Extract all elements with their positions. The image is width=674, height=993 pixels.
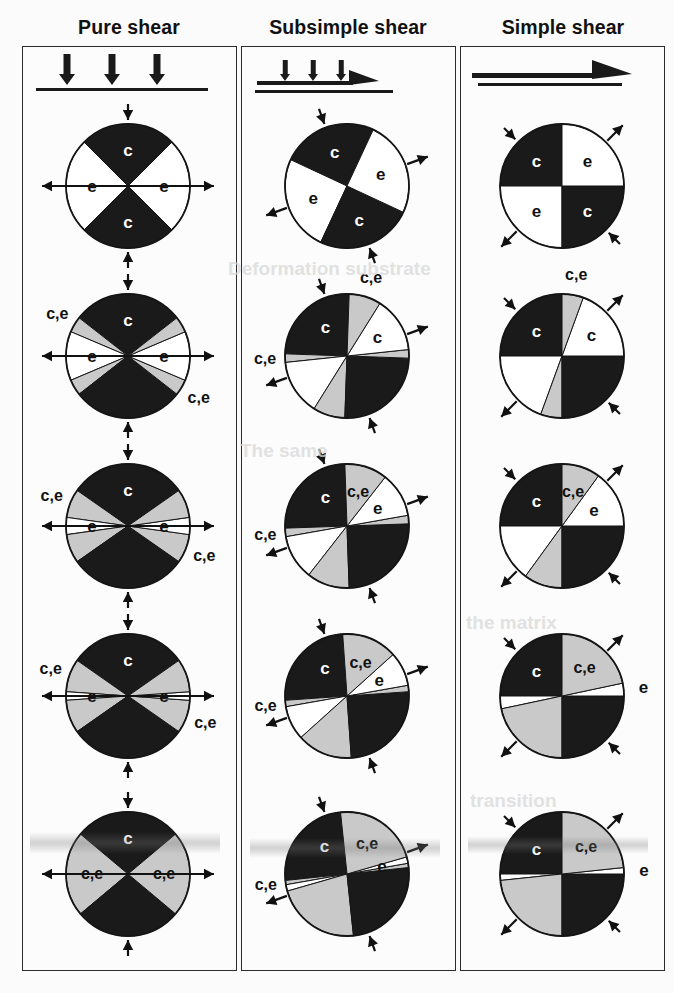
diagram-cell: cec,e (0, 0, 674, 993)
sector-mixed (500, 874, 562, 936)
deformation-fields-figure: Pure shear Subsimple shear Simple shear (0, 0, 674, 993)
sector-diagram (498, 810, 626, 938)
sector-label: e (639, 861, 648, 878)
sector-label: c (532, 840, 541, 857)
sector-label: c,e (575, 839, 597, 855)
